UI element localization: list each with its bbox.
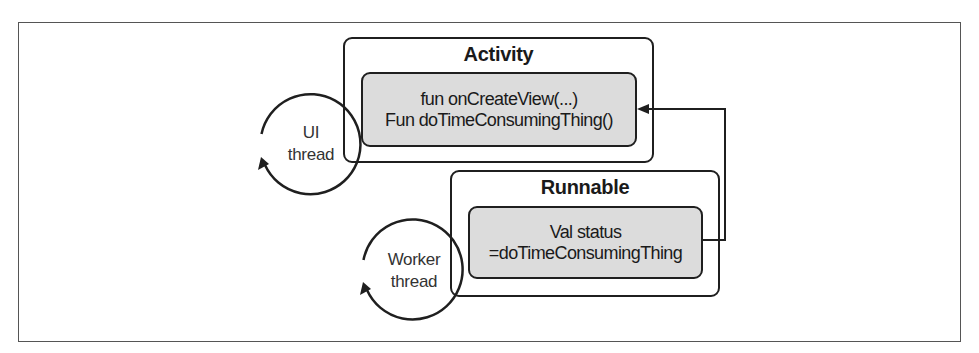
runnable-code-line-2: =doTimeConsumingThing — [489, 243, 682, 264]
ui-thread-label: UI thread — [281, 122, 341, 166]
activity-code-box: fun onCreateView(...) Fun doTimeConsumin… — [361, 72, 637, 147]
ui-thread-line-2: thread — [281, 144, 341, 166]
activity-title: Activity — [345, 43, 652, 66]
ui-thread-line-1: UI — [281, 122, 341, 144]
activity-code-line-2: Fun doTimeConsumingThing() — [385, 110, 613, 131]
runnable-title: Runnable — [452, 176, 718, 199]
activity-code-line-1: fun onCreateView(...) — [420, 89, 577, 110]
runnable-code-line-1: Val status — [550, 222, 622, 243]
worker-thread-line-2: thread — [381, 271, 447, 293]
worker-thread-label: Worker thread — [381, 249, 447, 293]
worker-thread-line-1: Worker — [381, 249, 447, 271]
runnable-code-box: Val status =doTimeConsumingThing — [468, 206, 703, 279]
